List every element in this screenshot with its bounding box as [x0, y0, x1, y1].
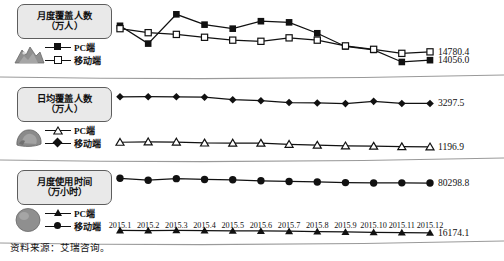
series-line-PC端	[120, 14, 430, 62]
data-point-open-square	[342, 43, 348, 49]
data-point-filled-circle	[144, 177, 151, 184]
series-end-value: 3297.5	[438, 97, 464, 108]
data-point-filled-diamond	[257, 97, 265, 105]
data-point-open-square	[201, 34, 207, 40]
x-tick-label: 2015.10	[360, 221, 387, 230]
data-point-filled-square	[258, 18, 265, 25]
data-point-open-square	[173, 31, 179, 37]
data-point-open-square	[399, 50, 405, 56]
data-point-open-square	[286, 35, 292, 41]
data-point-filled-diamond	[144, 93, 152, 101]
data-point-filled-diamond	[201, 93, 209, 101]
data-point-filled-diamond	[342, 100, 350, 108]
chart-panel-daily-coverage: 日均覆盖人数 （万人） PC端 移动端	[0, 83, 504, 167]
data-point-filled-diamond	[398, 100, 406, 108]
data-point-filled-circle	[201, 176, 208, 183]
data-point-open-square	[117, 26, 123, 32]
chart-figure: 月度覆盖人数 （万人） PC端 移动端	[0, 0, 504, 261]
data-point-filled-diamond	[313, 99, 321, 107]
x-tick-label: 2015.11	[389, 221, 415, 230]
chart-panel-monthly-coverage: 月度覆盖人数 （万人） PC端 移动端	[0, 0, 504, 84]
x-tick-label: 2015.4	[193, 221, 216, 230]
series-line-移动端	[120, 29, 430, 54]
chart-panel-monthly-usage-time: 月度使用时间 （万小时） PC端 移动端 80298	[0, 166, 504, 250]
data-point-filled-circle	[370, 179, 377, 186]
panel-plot-area	[0, 166, 504, 250]
data-point-filled-square	[399, 59, 406, 66]
x-tick-label: 2015.1	[109, 221, 132, 230]
data-point-filled-circle	[398, 179, 405, 186]
data-point-open-square	[230, 37, 236, 43]
series-end-value: 80298.8	[438, 177, 469, 188]
data-point-filled-circle	[116, 175, 123, 182]
x-tick-label: 2015.8	[306, 221, 329, 230]
data-point-filled-square	[201, 21, 208, 28]
data-point-filled-circle	[257, 177, 264, 184]
data-point-filled-circle	[426, 179, 433, 186]
data-point-filled-square	[286, 19, 293, 26]
data-point-filled-diamond	[229, 96, 237, 104]
data-point-filled-square	[173, 11, 180, 18]
data-point-open-square	[371, 46, 377, 52]
data-point-filled-square	[427, 57, 434, 64]
panel-plot-area	[0, 83, 504, 167]
x-tick-label: 2015.9	[334, 221, 357, 230]
panel-divider	[0, 158, 504, 162]
x-tick-label: 2015.5	[221, 221, 244, 230]
data-point-open-square	[427, 49, 433, 55]
data-point-filled-circle	[342, 179, 349, 186]
x-tick-label: 2015.3	[165, 221, 188, 230]
data-point-filled-square	[314, 30, 321, 37]
data-point-filled-diamond	[116, 93, 124, 101]
data-point-filled-diamond	[370, 98, 378, 106]
data-point-filled-diamond	[285, 99, 293, 107]
data-point-filled-square	[229, 25, 236, 32]
data-point-filled-circle	[285, 178, 292, 185]
data-point-filled-circle	[314, 178, 321, 185]
data-point-filled-diamond	[426, 100, 434, 108]
data-point-open-square	[145, 30, 151, 36]
data-point-filled-diamond	[173, 93, 181, 101]
x-tick-label: 2015.2	[137, 221, 160, 230]
data-point-filled-circle	[229, 176, 236, 183]
x-tick-label: 2015.6	[250, 221, 273, 230]
panel-divider	[0, 75, 504, 79]
data-point-filled-circle	[173, 175, 180, 182]
data-point-open-square	[258, 38, 264, 44]
x-axis-tick-labels: 2015.12015.22015.32015.42015.52015.62015…	[0, 221, 504, 235]
data-point-filled-square	[145, 40, 152, 47]
x-tick-label: 2015.12	[417, 221, 444, 230]
source-note: 资料来源：艾瑞咨询。	[10, 240, 110, 254]
x-tick-label: 2015.7	[278, 221, 301, 230]
panel-plot-area	[0, 0, 504, 84]
series-end-value: 14056.0	[438, 54, 469, 65]
series-line-PC端	[120, 142, 430, 147]
series-line-移动端	[120, 97, 430, 104]
series-end-value: 1196.9	[438, 141, 464, 152]
series-line-移动端	[120, 178, 430, 183]
data-point-open-square	[314, 37, 320, 43]
